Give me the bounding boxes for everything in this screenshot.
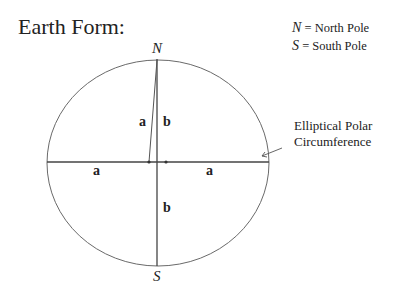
annotation-ellipse: Elliptical Polar Circumference [294, 118, 372, 150]
label-b-lower: b [163, 200, 171, 216]
south-pole-label: S [153, 268, 161, 285]
label-a-right: a [206, 163, 213, 179]
label-a-slanted: a [139, 114, 146, 130]
annotation-line2: Circumference [294, 134, 372, 150]
polar-ellipse [47, 60, 269, 266]
focus-right [164, 160, 167, 163]
annotation-line1: Elliptical Polar [294, 118, 372, 134]
focus-left [147, 160, 150, 163]
north-pole-label: N [152, 40, 162, 57]
label-a-left: a [93, 163, 100, 179]
focal-line [149, 60, 157, 162]
label-b-upper: b [163, 114, 171, 130]
